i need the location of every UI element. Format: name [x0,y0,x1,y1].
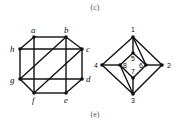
left-edge-f-c [34,49,82,93]
right-node-label-4: 4 [94,62,98,69]
diagram-canvas: (c) abcdefgh 12345678 (e) [0,0,191,120]
right-node-8 [118,63,122,67]
right-edge-3-4 [102,65,133,94]
right-node-4 [100,63,104,67]
right-node-label-2: 2 [167,62,171,69]
left-node-label-b: b [64,25,69,35]
right-node-label-7: 7 [131,68,135,75]
right-edge-4-1 [102,37,133,65]
right-node-6 [144,63,148,67]
left-node-h [18,47,22,51]
left-edge-b-c [66,37,82,49]
left-node-label-g: g [10,75,15,85]
right-edge-2-3 [133,65,162,94]
left-node-label-c: c [86,44,90,54]
right-node-label-8: 8 [123,62,127,69]
left-edge-h-a [20,37,34,49]
left-node-c [80,47,84,51]
right-node-label-3: 3 [131,97,135,104]
right-edge-1-2 [133,37,162,65]
left-node-label-a: a [31,25,36,35]
caption-bottom: (e) [91,110,100,119]
right-node-label-6: 6 [139,62,143,69]
left-node-label-h: h [10,44,15,54]
left-node-g [18,77,22,81]
left-edge-f-g [20,79,34,93]
right-node-label-1: 1 [131,26,135,33]
caption-top: (c) [91,3,100,12]
right-node-label-5: 5 [131,55,135,62]
left-node-label-e: e [64,95,68,105]
right-edge-1-6 [133,37,146,65]
left-node-a [32,35,36,39]
graph-right-edges [102,37,162,94]
right-node-1 [131,35,135,39]
left-node-label-d: d [86,74,91,84]
left-node-b [64,35,68,39]
left-node-d [80,77,84,81]
left-edge-d-e [66,79,82,93]
right-node-7 [131,76,135,80]
right-node-3 [131,92,135,96]
left-node-label-f: f [32,95,36,105]
graph-left-edges [20,37,82,93]
right-node-2 [160,63,164,67]
